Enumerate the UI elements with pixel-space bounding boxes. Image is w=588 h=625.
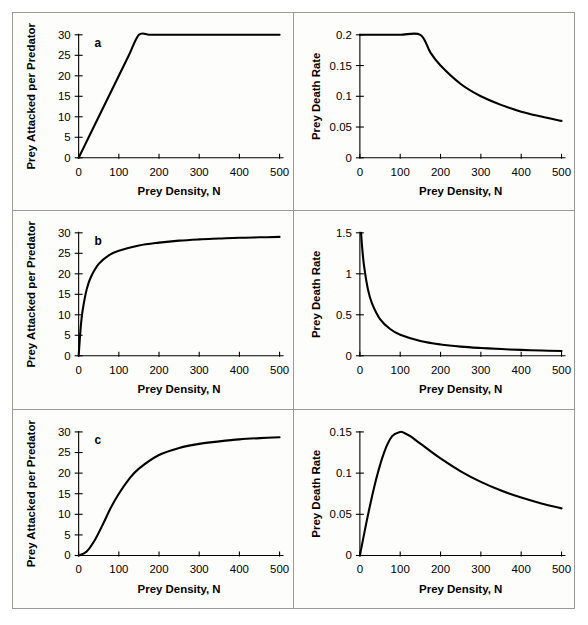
data-curve [79,33,280,157]
x-tick-label: 100 [109,364,128,376]
chart-b-right: 00.511.50100200300400500Prey Density, NP… [294,211,575,408]
x-axis-title: Prey Density, N [138,384,221,396]
x-tick-label: 400 [230,563,249,575]
x-tick-label: 400 [511,166,530,178]
y-tick-label: 15 [58,90,71,102]
data-curve [79,437,280,555]
y-tick-label: 10 [58,309,71,321]
x-axis-title: Prey Density, N [138,583,221,595]
x-tick-label: 500 [551,166,570,178]
x-tick-label: 0 [75,364,81,376]
panel-a-functional-response: 0510152025300100200300400500Prey Density… [13,13,294,211]
y-tick-label: 25 [58,446,71,458]
y-tick-label: 0.05 [329,508,351,520]
x-tick-label: 500 [270,166,289,178]
x-tick-label: 400 [230,364,249,376]
data-curve [359,33,561,120]
y-tick-label: 25 [58,49,71,61]
x-axis-title: Prey Density, N [138,185,221,197]
panel-letter: c [95,433,102,447]
x-tick-label: 400 [230,166,249,178]
y-tick-label: 0 [345,549,351,561]
chart-a-right: 00.050.10.150.20100200300400500Prey Dens… [294,13,575,210]
y-tick-label: 1 [345,268,351,280]
y-tick-label: 0.5 [335,309,351,321]
x-tick-label: 100 [390,364,409,376]
data-curve [79,237,280,356]
plot-area-c-left: 0510152025300100200300400500Prey Density… [13,410,293,608]
y-axis-title: Prey Death Rate [309,449,321,537]
y-tick-label: 20 [58,70,71,82]
panel-b-death-rate: 00.511.50100200300400500Prey Density, NP… [294,211,575,409]
y-tick-label: 0 [64,549,70,561]
x-tick-label: 200 [430,166,449,178]
x-tick-label: 200 [149,364,168,376]
y-tick-label: 1.5 [335,227,351,239]
y-tick-label: 30 [58,426,71,438]
x-axis-title: Prey Density, N [419,185,502,197]
y-tick-label: 30 [58,29,71,41]
x-tick-label: 300 [471,166,490,178]
y-tick-label: 0 [64,152,70,164]
figure-panel-grid: 0510152025300100200300400500Prey Density… [12,12,575,609]
y-tick-label: 15 [58,487,71,499]
y-tick-label: 10 [58,111,71,123]
x-tick-label: 400 [511,563,530,575]
y-tick-label: 0 [64,350,70,362]
x-tick-label: 200 [430,563,449,575]
data-curve [359,431,561,555]
panel-a-death-rate: 00.050.10.150.20100200300400500Prey Dens… [294,13,575,211]
y-tick-label: 0.15 [329,426,351,438]
plot-area-a-left: 0510152025300100200300400500Prey Density… [13,13,293,210]
chart-c-right: 00.050.10.150100200300400500Prey Density… [294,410,575,608]
y-tick-label: 20 [58,268,71,280]
y-tick-label: 0 [345,350,351,362]
x-tick-label: 200 [149,166,168,178]
x-tick-label: 200 [149,563,168,575]
x-tick-label: 500 [551,563,570,575]
plot-area-c-right: 00.050.10.150100200300400500Prey Density… [294,410,575,608]
y-axis-title: Prey Death Rate [309,53,321,140]
y-tick-label: 5 [64,131,70,143]
plot-area-a-right: 00.050.10.150.20100200300400500Prey Dens… [294,13,575,210]
y-tick-label: 0.1 [335,467,351,479]
chart-c-left: 0510152025300100200300400500Prey Density… [13,410,293,608]
x-tick-label: 300 [471,563,490,575]
y-axis-title: Prey Attacked per Predator [25,419,37,567]
x-tick-label: 300 [190,166,209,178]
x-tick-label: 200 [430,364,449,376]
x-tick-label: 500 [270,364,289,376]
y-axis-title: Prey Death Rate [309,251,321,338]
y-tick-label: 5 [64,330,70,342]
y-tick-label: 0 [345,152,351,164]
x-tick-label: 400 [511,364,530,376]
y-axis-title: Prey Attacked per Predator [25,23,37,170]
x-tick-label: 300 [190,563,209,575]
panel-letter: b [95,234,102,248]
x-axis-title: Prey Density, N [419,583,502,595]
y-axis-title: Prey Attacked per Predator [25,221,37,368]
x-tick-label: 300 [471,364,490,376]
y-tick-label: 15 [58,289,71,301]
x-tick-label: 100 [390,563,409,575]
x-tick-label: 300 [190,364,209,376]
y-tick-label: 25 [58,248,71,260]
y-tick-label: 30 [58,227,71,239]
x-tick-label: 0 [356,364,362,376]
x-tick-label: 100 [109,166,128,178]
x-tick-label: 0 [356,563,362,575]
data-curve [361,233,561,351]
x-axis-title: Prey Density, N [419,384,502,396]
panel-b-functional-response: 0510152025300100200300400500Prey Density… [13,211,294,409]
plot-area-b-right: 00.511.50100200300400500Prey Density, NP… [294,211,575,408]
x-tick-label: 100 [390,166,409,178]
y-tick-label: 0.15 [329,60,351,72]
x-tick-label: 100 [109,563,128,575]
x-tick-label: 500 [270,563,289,575]
chart-b-left: 0510152025300100200300400500Prey Density… [13,211,293,408]
panel-letter: a [95,36,102,50]
x-tick-label: 500 [551,364,570,376]
y-tick-label: 10 [58,508,71,520]
y-tick-label: 20 [58,467,71,479]
x-tick-label: 0 [75,563,81,575]
